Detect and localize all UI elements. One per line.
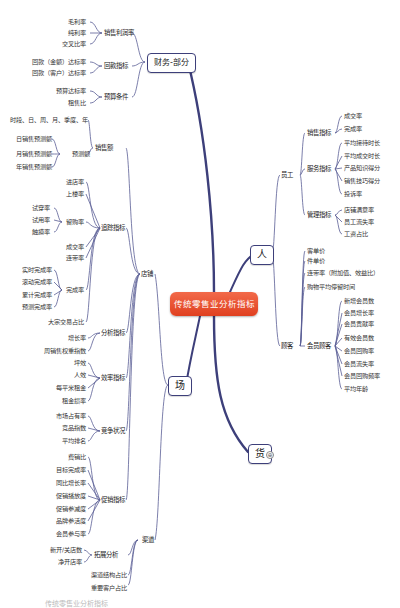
leaf[interactable]: 滚动完成率 xyxy=(22,278,52,286)
leaf[interactable]: 留购率 xyxy=(66,218,84,226)
leaf[interactable]: 新开/关店数 xyxy=(50,546,82,554)
venue-node[interactable]: 场 xyxy=(168,376,192,396)
channel-group[interactable]: 重要客户占比 xyxy=(91,584,127,592)
caption: 传统零售业分析指标 xyxy=(45,598,108,608)
finance-sub-0[interactable]: 销售利润率 xyxy=(104,29,134,37)
leaf[interactable]: 会员回购率 xyxy=(344,347,374,355)
root-node[interactable]: 传统零售业分析指标 xyxy=(170,292,258,316)
leaf[interactable]: 回款（金额）达标率 xyxy=(32,58,86,66)
leaf[interactable]: 市场占有率 xyxy=(56,412,86,420)
leaf[interactable]: 上楼率 xyxy=(66,190,84,198)
leaf[interactable]: 会员增长率 xyxy=(344,309,374,317)
leaf[interactable]: 目标完成率 xyxy=(56,466,86,474)
leaf[interactable]: 累计完成率 xyxy=(22,291,52,299)
leaf[interactable]: 平均接待时长 xyxy=(344,139,380,147)
finance-sub-1[interactable]: 回款指标 xyxy=(104,62,128,70)
leaf[interactable]: 时段、日、周、月、季度、年 xyxy=(10,116,88,124)
leaf[interactable]: 同比增长率 xyxy=(56,479,86,487)
leaf[interactable]: 竞品指数 xyxy=(62,424,86,432)
cust-item[interactable]: 件单价 xyxy=(307,257,325,265)
emp-group[interactable]: 管理指标 xyxy=(307,211,331,219)
leaf[interactable]: 回款（客户）达标率 xyxy=(32,69,86,77)
emp-group[interactable]: 服务指标 xyxy=(307,165,331,173)
leaf[interactable]: 每平米租金 xyxy=(56,384,86,392)
leaf[interactable]: 预算达标率 xyxy=(56,87,86,95)
leaf[interactable]: 交叉比率 xyxy=(62,40,86,48)
leaf[interactable]: 试穿率 xyxy=(32,204,50,212)
finance-sub-2[interactable]: 预算条件 xyxy=(104,93,128,101)
store-node[interactable]: 店铺 xyxy=(141,270,153,278)
leaf[interactable]: 增长率 xyxy=(68,334,86,342)
leaf[interactable]: 毛利率 xyxy=(68,18,86,26)
leaf[interactable]: 净开店率 xyxy=(58,558,82,566)
leaf[interactable]: 平均排名 xyxy=(62,437,86,445)
expand-icon[interactable]: ⊕ xyxy=(266,451,274,459)
leaf[interactable]: 新增会员数 xyxy=(344,297,374,305)
leaf[interactable]: 投诉率 xyxy=(344,190,362,198)
leaf[interactable]: 品牌参活度 xyxy=(56,517,86,525)
leaf[interactable]: 成交率 xyxy=(344,112,362,120)
leaf[interactable]: 产品知识得分 xyxy=(344,164,380,172)
cust-item[interactable]: 购物平均停留时间 xyxy=(307,283,355,291)
leaf[interactable]: 成交率 xyxy=(66,243,84,251)
leaf[interactable]: 销售技巧得分 xyxy=(344,177,380,185)
emp-group[interactable]: 销售指标 xyxy=(307,129,331,137)
store-group[interactable]: 销售额 xyxy=(95,144,113,152)
leaf[interactable]: 工资占比 xyxy=(344,230,368,238)
member-node[interactable]: 会员顾客 xyxy=(307,342,331,350)
leaf[interactable]: 促销播放度 xyxy=(56,492,86,500)
channel-group[interactable]: 渠道结构占比 xyxy=(91,571,127,579)
leaf[interactable]: 周销售权重指数 xyxy=(44,347,86,355)
leaf[interactable]: 大宗交易占比 xyxy=(48,318,84,326)
leaf[interactable]: 连带率 xyxy=(66,254,84,262)
leaf[interactable]: 预测完成率 xyxy=(22,303,52,311)
leaf[interactable]: 会员参与率 xyxy=(56,530,86,538)
leaf[interactable]: 人效 xyxy=(74,371,86,379)
store-group[interactable]: 分析指标 xyxy=(101,329,125,337)
store-group[interactable]: 促销指标 xyxy=(101,496,125,504)
leaf[interactable]: 员工流失率 xyxy=(344,218,374,226)
leaf[interactable]: 试用率 xyxy=(32,216,50,224)
leaf[interactable]: 完成率 xyxy=(66,286,84,294)
leaf[interactable]: 会员贡献率 xyxy=(344,320,374,328)
leaf[interactable]: 租金损率 xyxy=(62,397,86,405)
leaf[interactable]: 平均年龄 xyxy=(344,385,368,393)
employee-node[interactable]: 员工 xyxy=(281,171,293,179)
leaf[interactable]: 促销参减度 xyxy=(56,505,86,513)
people-node[interactable]: 人 xyxy=(250,245,274,265)
leaf[interactable]: 日销售预测额 xyxy=(16,135,52,143)
leaf[interactable]: 会员回购频率 xyxy=(344,372,380,380)
leaf[interactable]: 会员流失率 xyxy=(344,360,374,368)
store-group[interactable]: 效率指标 xyxy=(101,374,125,382)
cust-item[interactable]: 客单价 xyxy=(307,247,325,255)
store-group[interactable]: 竞争状况 xyxy=(101,427,125,435)
cust-item[interactable]: 连带率（附加值、效益比） xyxy=(307,269,379,277)
leaf[interactable]: 租售比 xyxy=(68,99,86,107)
leaf[interactable]: 进店率 xyxy=(66,178,84,186)
leaf[interactable]: 费销比 xyxy=(68,453,86,461)
leaf[interactable]: 月销售预测额 xyxy=(16,150,52,158)
leaf[interactable]: 纯利率 xyxy=(68,29,86,37)
leaf[interactable]: 坪效 xyxy=(74,359,86,367)
leaf[interactable]: 触摸率 xyxy=(32,228,50,236)
leaf[interactable]: 店铺满意率 xyxy=(344,206,374,214)
channel-node[interactable]: 渠道 xyxy=(142,536,154,544)
leaf[interactable]: 平均成交时长 xyxy=(344,152,380,160)
leaf[interactable]: 年销售预测额 xyxy=(16,163,52,171)
finance-node[interactable]: 财务-部分 xyxy=(147,53,196,73)
channel-group[interactable]: 拓展分析 xyxy=(94,551,118,559)
leaf[interactable]: 预测额 xyxy=(72,150,90,158)
leaf[interactable]: 实时完成率 xyxy=(22,266,52,274)
leaf[interactable]: 完成率 xyxy=(344,125,362,133)
leaf[interactable]: 有效会员数 xyxy=(344,334,374,342)
store-group[interactable]: 追踪指标 xyxy=(101,224,125,232)
customer-node[interactable]: 顾客 xyxy=(281,342,293,350)
